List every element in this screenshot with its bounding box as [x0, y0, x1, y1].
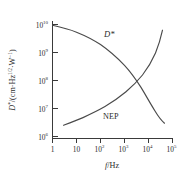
x-tick-label-10e2: 102 [95, 144, 105, 153]
x-tick-label-10e5: 105 [167, 144, 177, 153]
x-axis-title: f/Hz [105, 161, 119, 170]
chart-figure: 1010 109 108 107 106 1 10 102 103 104 10… [0, 0, 188, 176]
x-tick-label-10e4: 104 [143, 144, 153, 153]
curve-annotations: D* NEP [103, 29, 119, 121]
y-tick-labels: 1010 109 108 107 106 [36, 20, 49, 141]
x-axis-ticks [53, 139, 173, 144]
x-tick-label-10: 10 [73, 145, 81, 154]
data-curves [53, 25, 165, 125]
curve-label-nep: NEP [103, 112, 119, 121]
y-axis-title: D*/(cm·Hz1/2·W−1) [7, 49, 17, 112]
x-tick-labels: 1 10 102 103 104 105 [51, 144, 177, 153]
x-tick-label-1: 1 [51, 145, 55, 154]
y-tick-label-10e6: 106 [38, 132, 48, 141]
y-axis-ticks [53, 25, 58, 137]
x-tick-label-10e3: 103 [119, 144, 129, 153]
curve-noise-equivalent-power-nep [64, 30, 163, 125]
curve-label-dstar: D* [103, 29, 115, 39]
y-tick-label-10e7: 107 [38, 104, 48, 113]
y-tick-label-10e8: 108 [38, 76, 48, 85]
curve-detectivity-dstar [53, 25, 165, 123]
y-tick-label-10e10: 1010 [36, 20, 49, 29]
y-tick-label-10e9: 109 [38, 48, 48, 57]
detectivity-noise-log-log-plot: 1010 109 108 107 106 1 10 102 103 104 10… [0, 0, 188, 176]
